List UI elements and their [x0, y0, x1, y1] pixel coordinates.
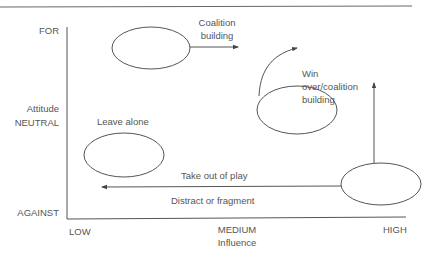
label-coalition-line2: building	[190, 30, 244, 42]
label-leave-alone: Leave alone	[97, 116, 149, 128]
y-tick-against: AGAINST	[0, 207, 59, 219]
y-tick-for: FOR	[0, 25, 59, 37]
label-win-line3: building	[302, 94, 335, 106]
arrow-take-out-of-play	[102, 186, 341, 187]
x-tick-low: LOW	[69, 226, 91, 238]
label-take-out-of-play: Take out of play	[181, 170, 248, 182]
label-distract-or-fragment: Distract or fragment	[171, 195, 254, 207]
label-win-line2: over/coalition	[302, 81, 358, 93]
y-tick-neutral: NEUTRAL	[0, 117, 59, 129]
x-tick-high: HIGH	[383, 224, 407, 236]
label-coalition-line1: Coalition	[190, 17, 244, 29]
label-win-line1: Win	[302, 68, 318, 80]
x-tick-medium: MEDIUM	[205, 224, 269, 236]
x-axis-title: Influence	[205, 237, 269, 249]
top-rule	[0, 6, 412, 7]
ellipse-leave-alone	[84, 133, 164, 177]
y-axis-title: Attitude	[0, 103, 59, 115]
ellipse-coalition	[112, 27, 190, 69]
x-axis	[67, 217, 406, 219]
ellipse-against-high	[341, 163, 421, 205]
